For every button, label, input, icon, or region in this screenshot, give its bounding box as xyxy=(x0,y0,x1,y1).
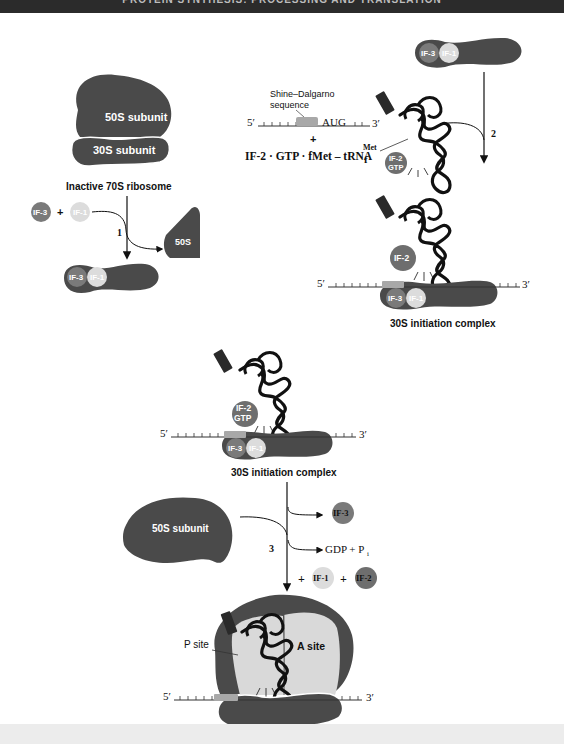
50s-subunit-shape xyxy=(76,75,171,137)
label-if2: IF-2 xyxy=(394,253,409,263)
30s-initiation-complex-b: IF-2 GTP 5′ 3′ IF-3 IF-1 30S initiation … xyxy=(160,349,367,478)
complex-label-if1: IF-1 xyxy=(90,273,105,282)
label-if1: IF-1 xyxy=(409,294,424,303)
label-if3: IF-3 xyxy=(228,444,243,453)
mrna-5prime: 5′ xyxy=(160,427,168,439)
inactive-70s-ribosome: 50S subunit 30S subunit Inactive 70S rib… xyxy=(66,75,172,192)
label-if1: IF-1 xyxy=(73,208,88,217)
mrna-3prime: 3′ xyxy=(522,278,530,290)
ternary-complex-formula: IF-2 · GTP · fMet – tRNA xyxy=(245,150,373,162)
label-50s-subunit: 50S subunit xyxy=(105,111,168,123)
step-1-dissociation: IF-3 + IF-1 1 50S IF-3 IF-1 xyxy=(31,196,200,293)
plus-sign: + xyxy=(57,206,63,218)
fmet-tag xyxy=(375,195,395,219)
step-3-number: 3 xyxy=(269,543,274,554)
label-a-site: A site xyxy=(297,640,325,652)
trna-icon xyxy=(400,98,450,193)
label-sequence: sequence xyxy=(270,100,309,110)
pi-subscript: i xyxy=(367,550,369,558)
trna-superscript: Met xyxy=(363,143,377,152)
fmet-tag xyxy=(375,91,395,115)
label-gtp: GTP xyxy=(388,163,403,172)
mrna-5prime: 5′ xyxy=(247,116,255,128)
label-gtp: GTP xyxy=(234,413,252,423)
step-2-assembly: IF-3 IF-1 2 xyxy=(415,38,521,162)
complex-label-if3: IF-3 xyxy=(69,273,84,282)
mrna-and-ternary-complex: Shine–Dalgarno sequence 5′ AUG 3′ + IF-2… xyxy=(245,89,450,192)
caption-inactive-70s: Inactive 70S ribosome xyxy=(66,181,172,192)
a-site-region xyxy=(284,613,340,695)
label-if3: IF-3 xyxy=(388,294,403,303)
plus-sign-1: + xyxy=(298,572,305,586)
label-released-if1: IF-1 xyxy=(313,573,329,583)
label-released-if2: IF-2 xyxy=(356,573,372,583)
label-if3: IF-3 xyxy=(33,208,48,217)
label-if1: IF-1 xyxy=(249,444,264,453)
fmet-tag xyxy=(213,349,233,373)
plus-sign-2: + xyxy=(340,572,347,586)
label-shine-dalgarno: Shine–Dalgarno xyxy=(270,89,335,99)
label-50s: 50S xyxy=(175,237,191,247)
trna-subscript: f xyxy=(364,153,368,165)
step-3-50s-joining: 50S subunit 3 IF-3 GDP + P i + IF-1 + IF… xyxy=(123,482,377,590)
shine-dalgarno-box xyxy=(214,694,238,701)
label-if1: IF-1 xyxy=(442,49,457,58)
70s-initiation-complex: P site A site 5′ 3′ xyxy=(163,595,374,729)
50s-fragment-shape xyxy=(164,207,200,258)
label-if3: IF-3 xyxy=(421,49,436,58)
30s-initiation-complex-a: IF-2 5′ 3′ IF-3 IF-1 30S initiation comp… xyxy=(317,195,530,329)
gdp-pi-label: GDP + P xyxy=(325,543,364,555)
page-footer xyxy=(0,724,564,744)
label-30s-subunit: 30S subunit xyxy=(93,144,156,156)
plus-sign: + xyxy=(310,133,316,145)
label-p-site: P site xyxy=(184,639,209,650)
label-if2: IF-2 xyxy=(236,403,251,413)
step-2-number: 2 xyxy=(491,128,496,139)
label-released-if3: IF-3 xyxy=(333,508,349,518)
translation-initiation-diagram: 50S subunit 30S subunit Inactive 70S rib… xyxy=(0,0,564,744)
label-if2: IF-2 xyxy=(389,154,402,163)
step-1-number: 1 xyxy=(117,227,122,238)
shine-dalgarno-box xyxy=(382,281,404,288)
shine-dalgarno-box xyxy=(296,117,318,126)
shine-dalgarno-box xyxy=(224,431,246,438)
mrna-5prime: 5′ xyxy=(317,277,325,289)
caption-30s-initiation-complex: 30S initiation complex xyxy=(231,467,337,478)
mrna-3prime: 3′ xyxy=(372,117,380,129)
caption-30s-initiation-complex: 30S initiation complex xyxy=(390,318,496,329)
mrna-3prime: 3′ xyxy=(359,428,367,440)
mrna-5prime: 5′ xyxy=(163,690,171,702)
label-50s-subunit: 50S subunit xyxy=(152,523,209,534)
mrna-3prime: 3′ xyxy=(366,691,374,703)
mrna-aug: AUG xyxy=(322,116,346,128)
